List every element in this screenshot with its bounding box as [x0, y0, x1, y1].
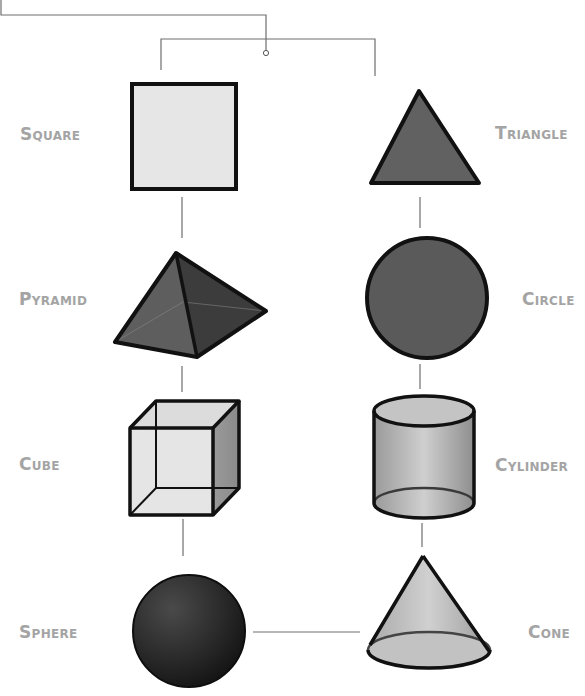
pyramid-shape-icon	[115, 253, 266, 357]
shapes-diagram	[0, 0, 585, 696]
square-shape-icon	[132, 84, 236, 189]
label-sphere: Sphere	[19, 622, 78, 642]
circle-shape-icon	[367, 238, 487, 358]
cylinder-shape-icon	[374, 396, 474, 518]
cube-shape-icon	[130, 401, 239, 515]
triangle-shape-icon	[371, 91, 479, 183]
cone-shape-icon	[368, 556, 490, 670]
label-cone: Cone	[528, 622, 570, 642]
sphere-shape-icon	[133, 575, 245, 687]
label-cube: Cube	[19, 454, 60, 474]
label-pyramid: Pyramid	[19, 289, 87, 309]
top-bracket	[161, 39, 375, 76]
label-triangle: Triangle	[495, 123, 568, 143]
root-frame	[1, 0, 266, 50]
label-circle: Circle	[522, 289, 575, 309]
label-cylinder: Cylinder	[495, 455, 568, 475]
label-square: Square	[20, 124, 80, 144]
root-node-icon	[263, 50, 268, 55]
